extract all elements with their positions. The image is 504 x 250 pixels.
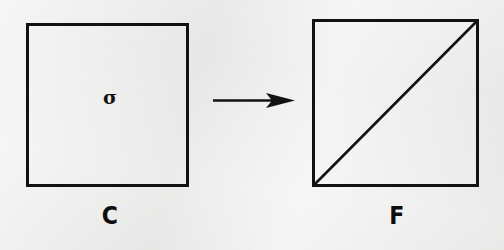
square-f-group [314, 21, 478, 186]
square-f-diagonal-line [314, 21, 477, 185]
square-c-group [28, 25, 188, 186]
square-c-outline [28, 25, 188, 186]
figure-canvas: σ C F [0, 0, 504, 250]
diagram-svg [0, 0, 504, 250]
transformation-arrow-group [213, 93, 295, 108]
